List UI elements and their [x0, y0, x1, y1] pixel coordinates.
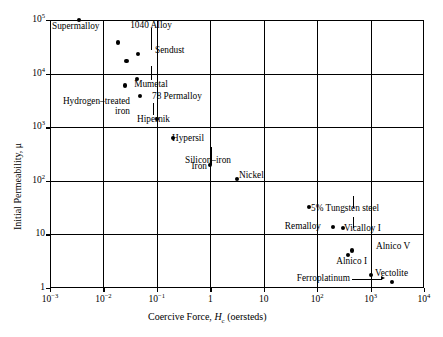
gridline-horizontal: [50, 181, 424, 182]
x-tick-label: 10−3: [39, 295, 61, 305]
y-tick-label: 10: [16, 229, 45, 239]
point-label-permalloy-78: 78 Permalloy: [152, 91, 202, 101]
data-point: [350, 248, 354, 252]
gridline-vertical: [371, 20, 372, 288]
x-tick-label: 102: [306, 295, 328, 305]
data-point: [138, 94, 142, 98]
point-label-iron: Iron: [175, 161, 207, 171]
x-axis-tick: [317, 288, 318, 292]
point-label-tungsten-steel: 5% Tungsten steel: [311, 203, 379, 213]
y-axis-tick: [46, 74, 50, 75]
x-tick-label: 10−1: [146, 295, 168, 305]
point-label-hypersil: Hypersil: [172, 133, 204, 143]
gridline-horizontal: [50, 234, 424, 235]
chart-figure: 10−310−210−1110102103104110102103104105 …: [0, 0, 443, 337]
data-point: [331, 225, 335, 229]
data-point: [124, 59, 128, 63]
y-tick-label: 104: [16, 69, 45, 79]
point-label-alnico-v: Alnico V: [376, 241, 410, 251]
point-label-vicalloy-i: Vicalloy I: [344, 223, 381, 233]
x-tick-label: 10: [253, 295, 275, 305]
data-point: [116, 40, 120, 44]
x-axis-title-prefix: Coercive Force,: [148, 311, 214, 322]
x-axis-tick: [210, 288, 211, 292]
data-point: [390, 280, 394, 284]
x-tick-label: 1: [199, 295, 221, 305]
point-label-vectolite: Vectolite: [375, 268, 408, 278]
y-axis-tick: [46, 127, 50, 128]
y-tick-label: 105: [16, 15, 45, 25]
point-label-alloy-1040: 1040 Alloy: [117, 20, 185, 30]
leader-line-mumetal: [151, 66, 152, 80]
point-label-mumetal: Mumetal: [121, 79, 181, 89]
point-label-hydrogen-treated-iron: Hydrogen–treated iron: [48, 96, 130, 116]
leader-arrow-ferroplatinum-shaft: [352, 279, 382, 280]
x-axis-tick: [264, 288, 265, 292]
y-axis-tick: [46, 288, 50, 289]
x-axis-tick: [371, 288, 372, 292]
y-axis-tick: [46, 20, 50, 21]
x-axis-tick: [424, 288, 425, 292]
point-label-ferroplatinum: Ferroplatinum: [270, 273, 350, 283]
x-axis-title-symbol: H: [214, 311, 221, 322]
gridline-vertical: [103, 20, 104, 288]
y-axis-tick: [46, 181, 50, 182]
x-tick-label: 103: [360, 295, 382, 305]
gridline-vertical: [317, 20, 318, 288]
y-axis-tick: [46, 234, 50, 235]
point-label-nickel: Nickel: [239, 170, 264, 180]
gridline-vertical: [157, 20, 158, 288]
x-tick-label: 10−2: [92, 295, 114, 305]
gridline-horizontal: [50, 74, 424, 75]
point-label-alnico-i: Alnico I: [315, 256, 367, 266]
x-axis-title: Coercive Force, Hc (oersteds): [148, 312, 267, 322]
point-label-remalloy: Remalloy: [264, 221, 321, 231]
y-tick-label: 103: [16, 122, 45, 132]
y-axis-title: Initial Permeability, μ: [13, 143, 23, 230]
point-label-sendust: Sendust: [155, 45, 184, 55]
point-label-hipernik: Hipernik: [125, 114, 182, 124]
leader-line-alnico-i: [371, 250, 372, 263]
x-tick-label: 104: [413, 295, 435, 305]
gridline-horizontal: [50, 127, 424, 128]
point-label-supermalloy: Supermalloy: [52, 21, 100, 31]
y-tick-label: 1: [16, 283, 45, 293]
x-axis-title-suffix: (oersteds): [225, 311, 267, 322]
hydrogen-treated-iron-line1: Hydrogen–treated: [63, 96, 130, 106]
leader-line-alloy-1040: [151, 28, 152, 50]
gridline-vertical: [264, 20, 265, 288]
plot-frame: [50, 20, 424, 288]
